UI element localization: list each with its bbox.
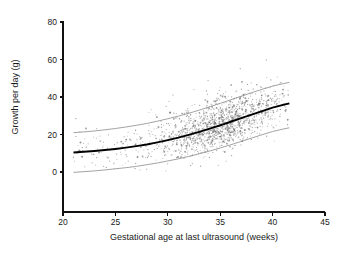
x-tick-label: 25: [111, 217, 121, 227]
y-tick-label: 40: [48, 92, 58, 102]
chart-canvas: 020406080202530354045Gestational age at …: [0, 0, 342, 254]
x-tick-label: 45: [320, 217, 330, 227]
y-tick-label: 80: [48, 17, 58, 27]
x-axis-title: Gestational age at last ultrasound (week…: [110, 232, 278, 242]
y-axis-title: Growth per day (g): [10, 59, 20, 134]
x-tick-label: 35: [215, 217, 225, 227]
axes-layer: [60, 21, 326, 216]
y-tick-label: 20: [48, 130, 58, 140]
x-tick-label: 30: [163, 217, 173, 227]
y-tick-label: 60: [48, 55, 58, 65]
x-tick-label: 40: [268, 217, 278, 227]
scatter-plot-figure: 020406080202530354045Gestational age at …: [0, 0, 342, 254]
x-tick-label: 20: [58, 217, 68, 227]
y-tick-label: 0: [52, 167, 57, 177]
